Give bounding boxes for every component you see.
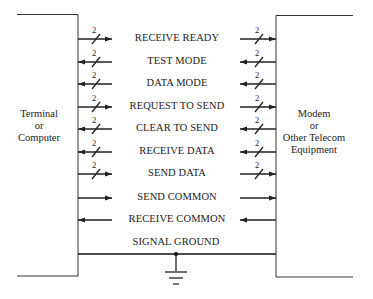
signal-label-receive-common: RECEIVE COMMON [129, 213, 226, 224]
bus-width-label: 2 [255, 93, 259, 103]
signal-label-receive-ready: RECEIVE READY [135, 32, 219, 43]
bus-width-label: 2 [255, 138, 259, 148]
signal-arrow-right-data-mode: 2 [240, 70, 276, 89]
signal-label-send-common: SEND COMMON [137, 191, 217, 202]
signal-arrow-left-clear-to-send: 2 [78, 115, 112, 134]
left-device-line: Computer [18, 132, 60, 144]
signal-arrow-right-receive-common [240, 217, 276, 222]
bus-width-label: 2 [255, 115, 259, 125]
signal-label-test-mode: TEST MODE [147, 55, 206, 66]
bus-width-label: 2 [255, 70, 259, 80]
signal-label-request-to-send: REQUEST TO SEND [130, 100, 225, 111]
signal-arrow-right-test-mode: 2 [240, 48, 276, 67]
signal-label-receive-data: RECEIVE DATA [139, 145, 214, 156]
signal-arrow-left-receive-ready: 2 [78, 25, 112, 44]
left-device-box [17, 15, 78, 277]
left-device-line: Terminal [18, 108, 60, 120]
signal-arrow-right-clear-to-send: 2 [240, 115, 276, 134]
bus-width-label: 2 [255, 160, 259, 170]
signal-ground-label: SIGNAL GROUND [133, 236, 220, 247]
bus-width-label: 2 [92, 93, 96, 103]
signal-arrow-left-receive-data: 2 [78, 138, 112, 157]
right-device-line: Equipment [283, 144, 345, 156]
bus-width-label: 2 [92, 25, 96, 35]
signal-arrow-left-send-common [78, 195, 112, 200]
left-signal-arrows: 2222222 [78, 25, 112, 223]
signal-label-clear-to-send: CLEAR TO SEND [136, 122, 218, 133]
right-device-line: Other Telecom [283, 132, 345, 144]
right-device-line: Modem [283, 108, 345, 120]
signal-arrow-right-request-to-send: 2 [240, 93, 276, 112]
bus-width-label: 2 [92, 70, 96, 80]
signal-arrow-right-send-data: 2 [240, 160, 276, 179]
ground-icon [165, 252, 187, 284]
bus-width-label: 2 [255, 25, 259, 35]
signal-arrow-left-receive-common [78, 217, 112, 222]
signal-label-send-data: SEND DATA [148, 167, 206, 178]
signal-arrow-left-send-data: 2 [78, 160, 112, 179]
bus-width-label: 2 [92, 138, 96, 148]
bus-width-label: 2 [92, 48, 96, 58]
bus-width-label: 2 [92, 115, 96, 125]
signal-arrow-right-receive-data: 2 [240, 138, 276, 157]
signal-arrow-left-request-to-send: 2 [78, 93, 112, 112]
signal-arrow-left-test-mode: 2 [78, 48, 112, 67]
signal-arrow-left-data-mode: 2 [78, 70, 112, 89]
right-device-label: Modem or Other Telecom Equipment [283, 108, 345, 156]
left-device-line: or [18, 120, 60, 132]
bus-width-label: 2 [92, 160, 96, 170]
left-device-label: Terminal or Computer [18, 108, 60, 144]
right-device-line: or [283, 120, 345, 132]
bus-width-label: 2 [255, 48, 259, 58]
right-signal-arrows: 2222222 [240, 25, 276, 223]
signal-arrow-right-receive-ready: 2 [240, 25, 276, 44]
signal-arrow-right-send-common [240, 195, 276, 200]
signal-label-data-mode: DATA MODE [146, 77, 207, 88]
